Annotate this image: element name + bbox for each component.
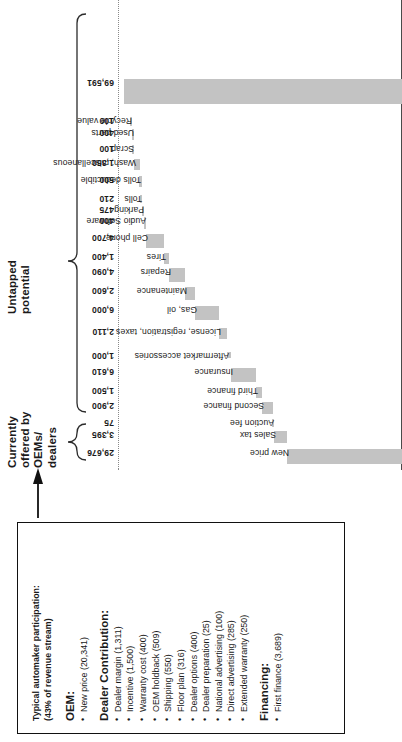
bar-value-label: 2,900 [92,401,114,411]
callout-list-item: National advertising (100) [213,537,226,721]
waterfall-bar [287,449,402,464]
bar-category-label: New price [250,448,289,458]
callout-section-heading: Dealer Contribution: [98,537,110,721]
bar-value-label: 75 [104,418,114,428]
bar-category-label: Audio Software [86,216,146,226]
bar-category-label: License, registration, taxes [116,327,221,337]
bar-value-label: 1,000 [92,351,114,361]
bar-value-label: 69,591 [87,78,114,88]
callout-list-item: Direct advertising (285) [225,537,238,721]
callout-list-item: Dealer preparation (25) [200,537,213,721]
bar-value-label: 4,090 [92,267,114,277]
bar-value-label: 3,395 [92,430,114,440]
callout-list-item: Incentive (1,500) [124,537,137,721]
bar-value-label: 100 [99,144,114,154]
waterfall-bar [146,234,164,248]
bar-category-label: Second finance [204,401,265,411]
callout-list-item: OEM holdback (509) [150,537,163,721]
callout-list-item: Warranty cost (400) [137,537,150,721]
bar-value-label: 2,600 [92,286,114,296]
bar-category-label: Parking [114,205,144,215]
bar-value-label: 2,110 [92,327,114,337]
waterfall-plot-area: New price29,676Sales tax3,395Auction fee… [118,0,402,470]
bar-category-label: Scrap [111,144,134,154]
bar-category-label: Tolls [124,194,142,204]
bar-category-label: Sales tax [239,430,275,440]
callout-list-item: Dealer margin (1,311) [112,537,125,721]
callout-box: Typical automaker participation: (43% of… [17,522,345,734]
waterfall-bar [195,306,218,320]
bar-value-label: 1,400 [92,252,114,262]
bar-value-label: 400 [99,216,114,226]
bar-category-label: Auction fee [229,418,273,428]
waterfall-total-bar [124,79,402,104]
callout-list-item: Floor plan (316) [175,537,188,721]
bar-category-label: Gas, oil [167,305,197,315]
bar-value-label: 4,700 [92,233,114,243]
callout-list-item: Extended warranty (250) [238,537,251,721]
bar-category-label: Third finance [207,386,258,396]
waterfall-bar [169,268,185,282]
bar-value-label: 100 [99,116,114,126]
bar-value-label: 29,676 [87,448,114,458]
callout-list-item: First finance (3,689) [272,537,285,721]
bar-value-label: 6,000 [92,305,114,315]
bar-value-label: 1,350 [92,158,114,168]
bar-value-label: 500 [99,175,114,185]
callout-title: Typical automaker participation: (43% of… [30,537,54,721]
bar-category-label: Tires [147,252,166,262]
bar-category-label: Insurance [194,367,233,377]
callout-section-heading: OEM: [64,537,76,721]
waterfall-bar [231,368,257,382]
bar-value-label: 6,610 [92,367,114,377]
callout-list-item: Dealer options (400) [188,537,201,721]
bar-value-label: 210 [99,194,114,204]
callout-list-item: New price (20,341) [78,537,91,721]
bar-category-label: Maintenance [137,286,187,296]
callout-list-item: Shipping (550) [162,537,175,721]
bar-value-label: 475 [99,205,114,215]
bar-category-label: Repairs [141,267,171,277]
callout-section-heading: Financing: [258,537,270,721]
waterfall-chart: Currently offered by OEMs/ dealers Untap… [0,0,402,470]
bar-category-label: Aftermarket accessories [134,351,228,361]
bar-value-label: 400 [99,128,114,138]
bar-value-label: 1,500 [92,386,114,396]
